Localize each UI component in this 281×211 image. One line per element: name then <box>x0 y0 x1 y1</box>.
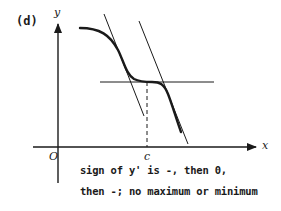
origin-label: O <box>49 150 58 163</box>
graph-canvas <box>0 0 281 211</box>
critical-point-label: c <box>144 150 150 163</box>
y-axis-label: y <box>54 6 60 19</box>
figure-panel-d: (d) y x O c sign of y' is -, then 0, the… <box>0 0 281 211</box>
function-curve <box>80 28 181 132</box>
x-axis-label: x <box>262 139 268 152</box>
panel-label: (d) <box>16 14 38 28</box>
caption-line-1: sign of y' is -, then 0, <box>80 164 227 176</box>
caption-line-2: then -; no maximum or minimum <box>80 185 258 197</box>
